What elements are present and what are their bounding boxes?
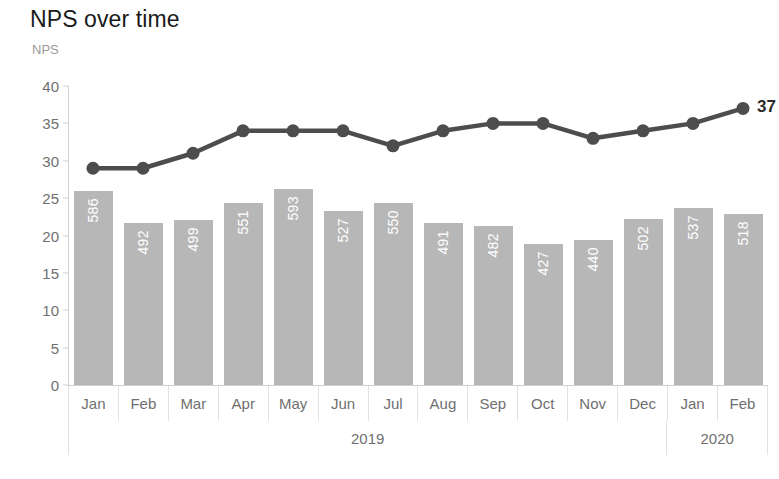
- x-tick-label: Jan: [68, 386, 119, 421]
- bar-value-label: 537: [686, 215, 700, 240]
- bar[interactable]: 527: [324, 211, 363, 385]
- bar-cell: 537: [668, 86, 718, 385]
- bar[interactable]: 502: [624, 219, 663, 385]
- bar-value-label: 593: [286, 196, 300, 221]
- x-tick-label: Aug: [418, 386, 468, 421]
- x-axis-month-labels: JanFebMarAprMayJunJulAugSepOctNovDecJanF…: [68, 386, 768, 421]
- bar-cell: 527: [318, 86, 368, 385]
- bar[interactable]: 593: [274, 189, 313, 385]
- bar-cell: 502: [618, 86, 668, 385]
- bar-value-label: 492: [136, 230, 150, 255]
- x-axis-year-groups: 20192020: [68, 421, 768, 455]
- bar-value-label: 518: [736, 221, 750, 246]
- bar-cell: 482: [468, 86, 518, 385]
- line-end-value-label: 37: [757, 97, 776, 117]
- bar-value-label: 550: [386, 210, 400, 235]
- bar[interactable]: 492: [124, 223, 163, 385]
- bar-value-label: 551: [236, 210, 250, 235]
- plot-area: 4035302520151050 58649249955159352755049…: [68, 86, 768, 385]
- bar[interactable]: 537: [674, 208, 713, 385]
- bar-cell: 551: [218, 86, 268, 385]
- bar-value-label: 586: [86, 198, 100, 223]
- bar-cell: 593: [268, 86, 318, 385]
- x-tick-label: Mar: [169, 386, 219, 421]
- bar[interactable]: 482: [474, 226, 513, 385]
- x-tick-label: Feb: [718, 386, 768, 421]
- bar-value-label: 499: [186, 227, 200, 252]
- bar-cell: 586: [68, 86, 118, 385]
- x-tick-label: Oct: [518, 386, 568, 421]
- x-tick-label: Feb: [119, 386, 169, 421]
- x-group-label: 2020: [667, 421, 768, 455]
- bar[interactable]: 440: [574, 240, 613, 385]
- bar-cell: 491: [418, 86, 468, 385]
- bar-value-label: 527: [336, 218, 350, 243]
- bar-cell: 499: [168, 86, 218, 385]
- bar[interactable]: 551: [224, 203, 263, 385]
- bar-cell: 440: [568, 86, 618, 385]
- bar-value-label: 482: [486, 233, 500, 258]
- bar-value-label: 491: [436, 230, 450, 255]
- bar-value-label: 427: [536, 251, 550, 276]
- bar-cell: 427: [518, 86, 568, 385]
- nps-over-time-chart: NPS over time NPS 4035302520151050 58649…: [0, 0, 779, 479]
- x-tick-label: May: [269, 386, 319, 421]
- x-group-label: 2019: [68, 421, 667, 455]
- bar-value-label: 440: [586, 247, 600, 272]
- bar[interactable]: 586: [74, 191, 113, 385]
- bar[interactable]: 427: [524, 244, 563, 385]
- bar-cell: 518: [718, 86, 768, 385]
- x-tick-label: Jun: [319, 386, 369, 421]
- y-axis-title: NPS: [32, 42, 59, 57]
- bar-cell: 550: [368, 86, 418, 385]
- bar[interactable]: 550: [374, 203, 413, 385]
- x-tick-label: Jan: [668, 386, 718, 421]
- x-tick-label: Sep: [468, 386, 518, 421]
- x-tick-label: Jul: [369, 386, 419, 421]
- x-tick-label: Dec: [618, 386, 668, 421]
- x-tick-label: Apr: [219, 386, 269, 421]
- x-tick-label: Nov: [568, 386, 618, 421]
- bar-value-label: 502: [636, 226, 650, 251]
- bar-series: 5864924995515935275504914824274405025375…: [68, 86, 768, 385]
- bar-cell: 492: [118, 86, 168, 385]
- bar[interactable]: 518: [724, 214, 763, 385]
- bar[interactable]: 491: [424, 223, 463, 385]
- chart-title: NPS over time: [30, 6, 180, 33]
- bar[interactable]: 499: [174, 220, 213, 385]
